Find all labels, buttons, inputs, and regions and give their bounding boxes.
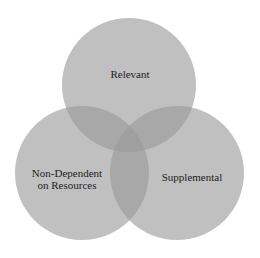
label-non-dependent-line1: Non-Dependent <box>22 167 112 179</box>
label-supplemental: Supplemental <box>152 171 232 183</box>
label-non-dependent: Non-Dependent on Resources <box>22 167 112 191</box>
venn-diagram <box>0 0 260 258</box>
label-non-dependent-line2: on Resources <box>22 179 112 191</box>
label-relevant: Relevant <box>100 68 160 80</box>
